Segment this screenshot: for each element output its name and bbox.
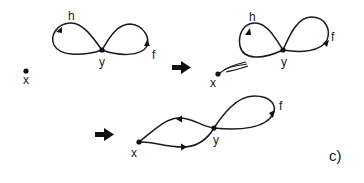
label-f: f	[279, 99, 283, 113]
panel-during: h f y x	[210, 10, 335, 90]
label-y: y	[281, 55, 287, 69]
label-x: x	[23, 73, 29, 87]
loop-h	[53, 23, 102, 54]
label-x: x	[210, 76, 216, 90]
path-upper	[139, 118, 214, 142]
transition-arrow-2	[95, 128, 114, 141]
right-arrow-icon	[181, 61, 191, 74]
label-h: h	[249, 10, 256, 24]
loop-f	[214, 96, 274, 129]
label-f: f	[331, 30, 335, 44]
loop-f	[283, 17, 328, 51]
right-arrow-icon	[104, 128, 114, 141]
label-y: y	[213, 133, 219, 147]
node-x	[215, 71, 220, 76]
label-x: x	[131, 146, 137, 160]
node-x	[136, 139, 141, 144]
arrowhead-icon	[144, 40, 150, 46]
node-y	[280, 47, 285, 52]
panel-before: h f y x	[23, 9, 156, 87]
panel-after: f y x	[131, 96, 283, 160]
label-h: h	[68, 9, 75, 23]
node-y	[99, 47, 104, 52]
loop-f	[102, 24, 148, 54]
transition-arrow-1	[172, 61, 191, 74]
node-y	[211, 125, 216, 130]
panel-label: c)	[329, 147, 342, 164]
label-y: y	[99, 55, 105, 69]
arrowhead-icon	[181, 144, 187, 151]
path-lower	[139, 128, 214, 147]
arrowhead-icon	[176, 116, 182, 123]
label-f: f	[152, 48, 156, 62]
arrowhead-icon	[245, 28, 251, 35]
loop-h	[240, 23, 283, 57]
homotopy-diagram: h f y x h f y x	[0, 0, 364, 183]
